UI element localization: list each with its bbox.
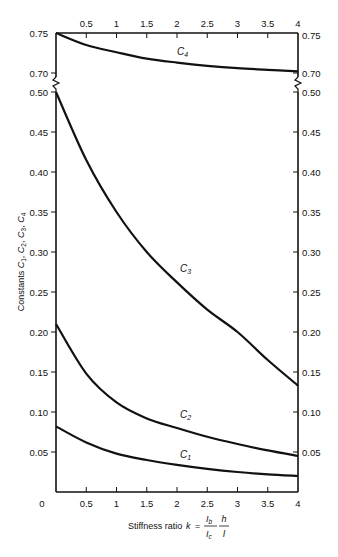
curve-c2: [56, 324, 298, 456]
x-axis-title-var: k: [186, 521, 191, 531]
x-tick-label-bottom: 3: [235, 498, 240, 509]
x-axis-title: Stiffness ratio k=IbIchl: [128, 514, 229, 540]
curve-label-c2: C2: [180, 409, 191, 421]
x-tick-label-top: 1.5: [140, 18, 153, 29]
y-tick-label-left: 0.25: [30, 287, 49, 298]
y-tick-label-left: 0.75: [30, 28, 49, 39]
x-tick-label-bottom: 0: [39, 498, 44, 509]
y-tick-label-left: 0.15: [30, 367, 49, 378]
chart: 00.511.522.533.540.511.522.533.540.750.7…: [0, 0, 338, 557]
x-tick-label-bottom: 2.5: [201, 498, 214, 509]
x-tick-label-bottom: 1: [114, 498, 119, 509]
x-axis-frac1-den: Ic: [206, 529, 213, 540]
curves: [56, 33, 298, 476]
x-tick-label-bottom: 3.5: [261, 498, 274, 509]
y-tick-label-right: 0.15: [302, 367, 321, 378]
y-tick-label-left: 0.70: [30, 68, 49, 79]
x-tick-label-top: 0.5: [80, 18, 93, 29]
y-tick-label-left: 0.40: [30, 167, 49, 178]
x-tick-label-bottom: 1.5: [140, 498, 153, 509]
y-tick-label-right: 0.50: [302, 87, 321, 98]
y-axis-title: Constants C1, C2, C3, C4: [16, 212, 27, 311]
curve-c1: [56, 426, 298, 476]
y-tick-label-right: 0.75: [302, 30, 321, 41]
x-tick-label-bottom: 0.5: [80, 498, 93, 509]
curve-label-c4: C4: [177, 46, 188, 58]
curve-c3: [56, 92, 298, 386]
y-tick-label-left: 0.45: [30, 127, 49, 138]
x-tick-label-top: 1: [114, 18, 119, 29]
y-tick-label-right: 0.70: [302, 68, 321, 79]
right-axis-break: [295, 77, 301, 92]
x-tick-label-top: 2: [174, 18, 179, 29]
y-tick-label-right: 0.20: [302, 327, 321, 338]
y-tick-label-right: 0.45: [302, 127, 321, 138]
y-tick-label-right: 0.40: [302, 167, 321, 178]
x-tick-label-bottom: 2: [174, 498, 179, 509]
x-axis-title-prefix: Stiffness ratio: [128, 521, 182, 531]
x-tick-label-top: 2.5: [201, 18, 214, 29]
y-tick-label-left: 0.05: [30, 447, 49, 458]
x-tick-label-top: 3: [235, 18, 240, 29]
y-tick-label-right: 0.30: [302, 247, 321, 258]
x-axis-frac1-num: Ib: [206, 514, 213, 525]
curve-label-c1: C1: [180, 449, 191, 461]
y-tick-label-left: 0.30: [30, 247, 49, 258]
y-tick-label-right: 0.05: [302, 447, 321, 458]
y-tick-label-left: 0.10: [30, 407, 49, 418]
y-tick-label-right: 0.10: [302, 407, 321, 418]
x-tick-label-top: 4: [295, 18, 300, 29]
y-tick-label-right: 0.35: [302, 207, 321, 218]
curve-label-c3: C3: [180, 263, 191, 275]
left-axis-break: [53, 77, 59, 92]
y-tick-label-right: 0.25: [302, 287, 321, 298]
y-tick-label-left: 0.35: [30, 207, 49, 218]
y-tick-label-left: 0.20: [30, 327, 49, 338]
x-axis-title-eq: =: [195, 521, 200, 531]
x-axis-frac2-den: l: [223, 529, 226, 539]
x-axis-frac2-num: h: [221, 514, 226, 524]
x-tick-label-top: 3.5: [261, 18, 274, 29]
axes: [53, 33, 301, 492]
y-tick-label-left: 0.50: [30, 87, 49, 98]
x-tick-label-bottom: 4: [295, 498, 300, 509]
